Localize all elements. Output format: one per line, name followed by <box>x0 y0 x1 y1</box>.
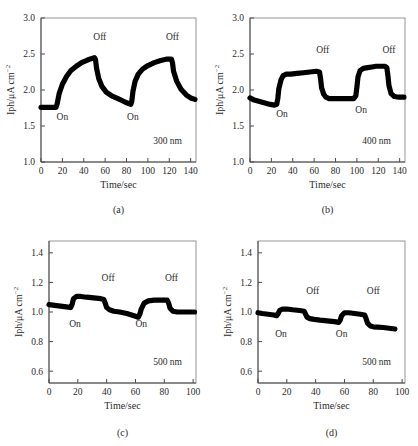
x-tick-label: 80 <box>331 166 341 176</box>
x-tick-label: 20 <box>267 166 277 176</box>
y-tick-label: 2.5 <box>23 49 35 59</box>
y-axis-title: Iph/μA cm−2 <box>12 286 24 337</box>
x-tick-label: 0 <box>47 387 52 397</box>
y-tick-label: 0.8 <box>31 337 43 347</box>
wavelength-label: 500 nm <box>362 357 391 367</box>
annotation-on: On <box>355 105 367 115</box>
svg-text:Iph/μA cm−2: Iph/μA cm−2 <box>12 286 24 337</box>
x-axis-title: Time/sec <box>100 179 137 190</box>
annotation-off: Off <box>165 273 179 283</box>
panel-d: 0.60.81.01.21.4020406080100OnOnOffOff500… <box>209 223 418 446</box>
photocurrent-curve <box>258 309 395 329</box>
y-tick-label: 1.4 <box>31 248 43 258</box>
y-tick-label: 1.5 <box>232 121 244 131</box>
y-tick-label: 2.0 <box>232 85 244 95</box>
annotation-on: On <box>69 319 81 329</box>
x-tick-label: 40 <box>102 387 112 397</box>
annotation-on: On <box>57 112 69 122</box>
x-tick-label: 0 <box>39 166 44 176</box>
x-axis-title: Time/sec <box>313 400 350 411</box>
y-axis-title: Iph/μA cm−2 <box>213 64 225 115</box>
annotation-on: On <box>275 329 287 339</box>
photocurrent-response-figure: 1.01.52.02.53.0020406080100120140OnOnOff… <box>0 0 418 446</box>
x-axis-title: Time/sec <box>104 400 141 411</box>
x-tick-label: 80 <box>160 387 170 397</box>
annotation-off: Off <box>93 32 107 42</box>
annotation-on: On <box>135 319 147 329</box>
x-tick-label: 0 <box>256 387 261 397</box>
y-tick-label: 1.0 <box>31 307 43 317</box>
x-tick-label: 100 <box>186 387 201 397</box>
x-tick-label: 60 <box>131 387 141 397</box>
x-tick-label: 120 <box>371 166 386 176</box>
x-tick-label: 60 <box>100 166 110 176</box>
y-axis-title: Iph/μA cm−2 <box>4 64 16 115</box>
y-tick-label: 1.5 <box>23 121 35 131</box>
y-axis-exponent: −2 <box>12 286 19 294</box>
panel-letter: (d) <box>326 427 338 439</box>
y-tick-label: 0.8 <box>240 337 252 347</box>
y-tick-label: 1.0 <box>23 157 35 167</box>
wavelength-label: 400 nm <box>362 136 391 146</box>
panel-a: 1.01.52.02.53.0020406080100120140OnOnOff… <box>0 0 209 223</box>
x-tick-label: 80 <box>369 387 379 397</box>
y-tick-label: 3.0 <box>232 13 244 23</box>
x-tick-label: 100 <box>395 387 410 397</box>
photocurrent-curve <box>49 296 195 317</box>
annotation-off: Off <box>316 45 330 55</box>
annotation-on: On <box>336 329 348 339</box>
panel-letter: (b) <box>322 204 334 216</box>
y-tick-label: 3.0 <box>23 13 35 23</box>
panel-c: 0.60.81.01.21.4020406080100OnOnOffOff500… <box>0 223 209 446</box>
y-tick-label: 2.5 <box>232 49 244 59</box>
x-tick-label: 40 <box>79 166 89 176</box>
y-axis-exponent: −2 <box>213 64 220 72</box>
x-tick-label: 80 <box>122 166 132 176</box>
x-tick-label: 40 <box>311 387 321 397</box>
panel-letter: (a) <box>113 204 124 216</box>
x-tick-label: 140 <box>184 166 199 176</box>
y-tick-label: 0.6 <box>240 367 252 377</box>
x-tick-label: 100 <box>141 166 156 176</box>
panel-letter: (c) <box>117 427 128 439</box>
plot-d: 0.60.81.01.21.4020406080100OnOnOffOff500… <box>209 223 418 446</box>
annotation-off: Off <box>306 286 320 296</box>
y-tick-label: 0.6 <box>31 367 43 377</box>
y-tick-label: 2.0 <box>23 85 35 95</box>
x-tick-label: 60 <box>340 387 350 397</box>
y-axis-exponent: −2 <box>4 64 11 72</box>
y-tick-label: 1.4 <box>240 248 252 258</box>
y-tick-label: 1.2 <box>240 278 252 288</box>
annotation-on: On <box>276 109 288 119</box>
plot-a: 1.01.52.02.53.0020406080100120140OnOnOff… <box>0 0 209 223</box>
x-tick-label: 20 <box>73 387 83 397</box>
panel-b: 1.01.52.02.53.0020406080100120140OnOnOff… <box>209 0 418 223</box>
y-tick-label: 1.0 <box>232 157 244 167</box>
svg-text:Iph/μA cm−2: Iph/μA cm−2 <box>213 64 225 115</box>
annotation-off: Off <box>166 32 180 42</box>
x-tick-label: 140 <box>393 166 408 176</box>
y-tick-label: 1.2 <box>31 278 43 288</box>
annotation-off: Off <box>382 45 396 55</box>
annotation-on: On <box>127 112 139 122</box>
svg-text:Iph/μA cm−2: Iph/μA cm−2 <box>221 286 233 337</box>
y-axis-exponent: −2 <box>221 286 228 294</box>
x-tick-label: 0 <box>248 166 253 176</box>
x-tick-label: 40 <box>288 166 298 176</box>
plot-b: 1.01.52.02.53.0020406080100120140OnOnOff… <box>209 0 418 223</box>
x-axis-title: Time/sec <box>309 179 346 190</box>
x-tick-label: 20 <box>58 166 68 176</box>
x-tick-label: 20 <box>282 387 292 397</box>
wavelength-label: 300 nm <box>153 136 182 146</box>
photocurrent-curve <box>41 58 195 108</box>
photocurrent-curve <box>250 66 404 105</box>
x-tick-label: 120 <box>162 166 177 176</box>
x-tick-label: 60 <box>309 166 319 176</box>
y-axis-title: Iph/μA cm−2 <box>221 286 233 337</box>
annotation-off: Off <box>102 273 116 283</box>
x-tick-label: 100 <box>350 166 365 176</box>
y-tick-label: 1.0 <box>240 307 252 317</box>
wavelength-label: 500 nm <box>153 357 182 367</box>
plot-c: 0.60.81.01.21.4020406080100OnOnOffOff500… <box>0 223 209 446</box>
annotation-off: Off <box>367 286 381 296</box>
